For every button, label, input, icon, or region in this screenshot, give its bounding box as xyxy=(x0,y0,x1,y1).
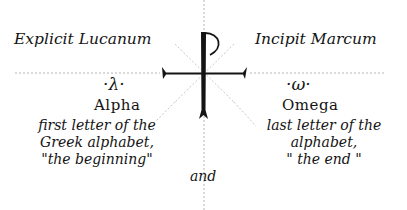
alpha-name: Alpha xyxy=(94,96,140,114)
alpha-line-1: first letter of the xyxy=(22,117,172,134)
connector-and: and xyxy=(190,168,216,184)
header-left: Explicit Lucanum xyxy=(14,30,152,48)
omega-glyph: ·ω· xyxy=(286,74,311,94)
omega-line-3: " the end " xyxy=(254,151,394,168)
omega-line-1: last letter of the xyxy=(254,117,394,134)
lambda-glyph: ·λ· xyxy=(103,74,125,94)
omega-description: last letter of the alphabet, " the end " xyxy=(254,117,394,168)
alpha-line-3: "the beginning" xyxy=(22,151,172,168)
alpha-description: first letter of the Greek alphabet, "the… xyxy=(22,117,172,168)
omega-name: Omega xyxy=(282,96,338,114)
omega-line-2: alphabet, xyxy=(254,134,394,151)
header-right: Incipit Marcum xyxy=(255,30,377,48)
alpha-line-2: Greek alphabet, xyxy=(22,134,172,151)
